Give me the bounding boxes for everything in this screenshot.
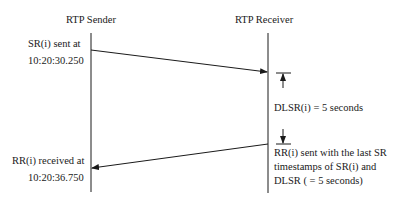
rr-sent-text-line1: RR(i) sent with the last SR [274,146,387,159]
sender-label: RTP Sender [66,13,116,26]
sr-message-arrow [91,50,267,72]
rr-received-text-line2: 10:20:36.750 [28,171,84,184]
sr-sent-text-line2: 10:20:30.250 [28,54,84,67]
rr-received-text-line1: RR(i) received at [12,154,84,167]
sr-sent-text-line1: SR(i) sent at [28,37,81,50]
rr-sent-text-line3: DLSR ( = 5 seconds) [274,174,363,187]
receiver-label: RTP Receiver [235,13,293,26]
dlsr-text: DLSR(i) = 5 seconds [274,101,363,114]
rr-sent-text-line2: timestamps of SR(i) and [274,160,376,173]
rr-message-arrow [92,144,268,168]
